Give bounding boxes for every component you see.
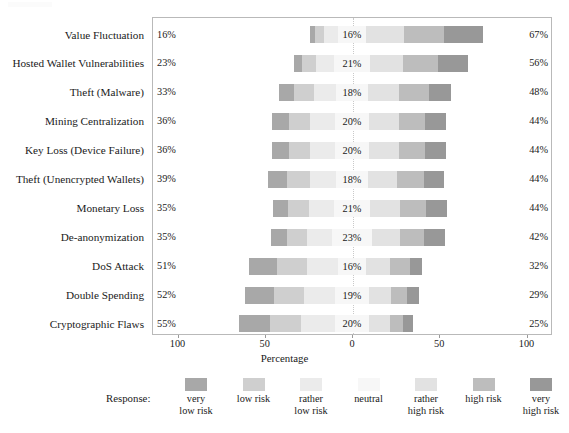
bar-segment	[334, 55, 371, 72]
bar-segment	[324, 26, 338, 43]
legend-title: Response:	[106, 392, 150, 404]
bar-segment	[370, 200, 400, 217]
bar-segment	[410, 258, 422, 275]
legend-swatch	[415, 378, 437, 391]
bar-segment	[274, 287, 304, 304]
bar-segment	[271, 229, 287, 246]
bar-segment	[270, 315, 301, 332]
bar-segment	[289, 142, 310, 159]
legend-swatch	[530, 378, 552, 391]
stacked-bar	[239, 315, 413, 332]
bar-segment	[288, 200, 309, 217]
legend-label: rather high risk	[394, 393, 458, 416]
bar-segment	[370, 55, 403, 72]
bars-layer: 16%21%18%20%20%18%21%23%16%19%20%	[152, 17, 552, 335]
legend-swatch	[358, 378, 380, 391]
bar-segment	[425, 142, 446, 159]
bar-segment	[424, 229, 445, 246]
bar-segment	[397, 171, 423, 188]
bar-segment	[399, 84, 429, 101]
bar-segment	[403, 55, 438, 72]
category-label: DoS Attack	[0, 252, 144, 281]
stacked-bar	[249, 258, 422, 275]
category-label: Double Spending	[0, 281, 144, 310]
category-label: De-anonymization	[0, 223, 144, 252]
bar-segment	[272, 113, 289, 130]
stacked-bar	[272, 113, 446, 130]
axis-tick-label: 50	[260, 338, 270, 349]
axis-tick-label: 0	[349, 338, 354, 349]
bar-segment	[368, 171, 398, 188]
bar-segment	[404, 26, 444, 43]
bar-segment	[368, 84, 399, 101]
stacked-bar	[310, 26, 483, 43]
bar-segment	[335, 315, 370, 332]
bar-segment	[273, 200, 289, 217]
category-label: Key Loss (Device Failure)	[0, 136, 144, 165]
bar-segment	[268, 171, 287, 188]
bar-segment	[334, 200, 371, 217]
bar-segment	[314, 84, 337, 101]
legend-swatch	[243, 378, 265, 391]
bar-segment	[310, 171, 336, 188]
bar-segment	[277, 258, 307, 275]
bar-segment	[316, 55, 333, 72]
stacked-bar	[279, 84, 452, 101]
bar-segment	[310, 113, 334, 130]
bar-segment	[332, 229, 372, 246]
bar-segment	[338, 26, 366, 43]
bar-segment	[338, 258, 366, 275]
likert-diverging-bar-chart: Value Fluctuation16%67%Hosted Wallet Vul…	[0, 0, 569, 433]
bar-segment	[425, 113, 446, 130]
bar-segment	[429, 84, 452, 101]
legend-item[interactable]: very high risk	[509, 378, 569, 416]
bar-segment	[403, 315, 413, 332]
bar-segment	[438, 55, 468, 72]
bar-segment	[444, 26, 482, 43]
legend-item[interactable]: rather high risk	[394, 378, 458, 416]
bar-segment	[426, 200, 447, 217]
legend-item[interactable]: very low risk	[164, 378, 228, 416]
category-label: Theft (Unencrypted Wallets)	[0, 165, 144, 194]
bar-segment	[400, 229, 424, 246]
bar-segment	[390, 258, 409, 275]
stacked-bar	[294, 55, 468, 72]
bar-segment	[302, 55, 316, 72]
bar-segment	[369, 142, 399, 159]
bar-segment	[294, 55, 303, 72]
bar-segment	[391, 287, 407, 304]
bar-segment	[272, 142, 289, 159]
bar-segment	[366, 258, 390, 275]
bar-segment	[301, 315, 334, 332]
category-label: Hosted Wallet Vulnerabilities	[0, 49, 144, 78]
bar-segment	[315, 26, 324, 43]
legend-label: high risk	[452, 393, 516, 405]
bar-segment	[294, 84, 313, 101]
legend-item[interactable]: rather low risk	[279, 378, 343, 416]
bar-segment	[390, 315, 402, 332]
bar-segment	[366, 26, 404, 43]
bar-segment	[335, 113, 370, 130]
legend-swatch	[473, 378, 495, 391]
legend-swatch	[300, 378, 322, 391]
legend-item[interactable]: high risk	[452, 378, 516, 405]
stacked-bar	[272, 142, 446, 159]
bar-segment	[309, 200, 333, 217]
legend-label: very high risk	[509, 393, 569, 416]
bar-segment	[279, 84, 295, 101]
bar-segment	[369, 315, 390, 332]
category-label: Cryptographic Flaws	[0, 310, 144, 339]
legend-label: very low risk	[164, 393, 228, 416]
bar-segment	[287, 171, 310, 188]
category-label: Theft (Malware)	[0, 78, 144, 107]
axis-tick-label: 100	[170, 338, 185, 349]
legend-item[interactable]: neutral	[337, 378, 401, 405]
bar-segment	[249, 258, 277, 275]
bar-segment	[310, 142, 334, 159]
bar-segment	[369, 113, 399, 130]
category-label: Mining Centralization	[0, 107, 144, 136]
bar-segment	[407, 287, 419, 304]
bar-segment	[245, 287, 275, 304]
legend-item[interactable]: low risk	[222, 378, 286, 405]
scan-artifact	[8, 2, 52, 7]
